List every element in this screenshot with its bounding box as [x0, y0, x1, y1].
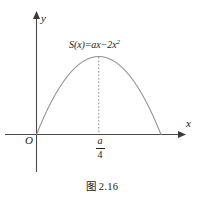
curve-formula-lead: S(x)=ax−2x: [69, 39, 116, 50]
y-axis-arrow-icon: [33, 11, 40, 19]
fraction-numerator: a: [92, 136, 108, 147]
curve-formula-exponent: 2: [116, 38, 119, 46]
figure-caption: 图 2.16: [0, 178, 204, 193]
vertex-tick-label: a 4: [92, 136, 108, 160]
curve-formula-label: S(x)=ax−2x2: [69, 40, 120, 50]
fraction-denominator: 4: [92, 150, 108, 161]
origin-label: O: [25, 135, 33, 146]
y-axis-label: y: [41, 13, 46, 24]
parabola-plot: [0, 0, 204, 198]
x-axis-label: x: [186, 118, 191, 129]
x-axis-arrow-icon: [178, 131, 186, 138]
figure-container: y x O S(x)=ax−2x2 a 4 图 2.16: [0, 0, 204, 198]
